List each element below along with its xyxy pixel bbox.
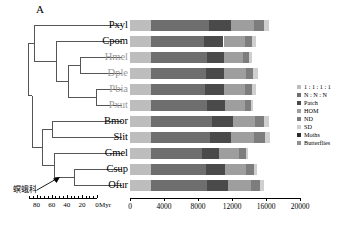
time-axis-minor-tick	[59, 196, 60, 198]
bar-row	[130, 148, 300, 159]
bar-segment	[245, 84, 253, 95]
bar-segment	[151, 180, 207, 191]
legend-item: Moths	[297, 131, 361, 139]
bar-segment	[253, 68, 257, 79]
bar-segment	[231, 132, 254, 143]
bar-segment	[265, 132, 270, 143]
time-axis-minor-tick	[74, 196, 75, 198]
bar-segment	[207, 180, 227, 191]
time-axis-minor-tick	[89, 196, 90, 198]
time-axis-tick-label: 80	[33, 201, 40, 209]
time-axis-minor-tick	[40, 196, 41, 198]
legend-label: ND	[304, 116, 313, 122]
time-axis-major-tick	[97, 195, 98, 198]
time-axis-minor-tick	[55, 196, 56, 198]
taxon-label-pbia: Pbia	[74, 84, 128, 95]
bar-segment	[264, 20, 269, 31]
bar-segment	[254, 132, 265, 143]
time-axis-tick-label: 60	[48, 201, 55, 209]
bar-segment	[239, 148, 246, 159]
count-axis-tick-label: 16000	[257, 202, 276, 211]
bar-segment	[252, 84, 255, 95]
bar-segment	[212, 116, 232, 127]
bar-segment	[130, 20, 151, 31]
legend-item: Patch	[297, 99, 361, 107]
bar-row	[130, 132, 300, 143]
count-axis-tick-label: 20000	[291, 202, 310, 211]
taxon-label-bmor: Bmor	[74, 116, 128, 127]
bar-segment	[231, 20, 254, 31]
time-axis-minor-tick	[71, 196, 72, 198]
bar-segment	[130, 36, 151, 47]
bar-row	[130, 84, 300, 95]
legend-label: Patch	[304, 100, 318, 106]
taxon-label-dple: Dple	[74, 68, 128, 79]
legend-item: Butterflies	[297, 139, 361, 147]
legend-swatch	[297, 133, 301, 137]
legend-item: N : N : N	[297, 91, 361, 99]
legend-swatch	[297, 85, 301, 89]
bar-segment	[206, 164, 226, 175]
bar-row	[130, 20, 300, 31]
taxon-label-pxyl: Pxyl	[74, 20, 128, 31]
bar-segment	[151, 148, 202, 159]
bar-row	[130, 36, 300, 47]
bar-segment	[264, 116, 268, 127]
bar-row	[130, 180, 300, 191]
legend-swatch	[297, 125, 301, 129]
bar-segment	[205, 84, 225, 95]
count-axis-tick	[198, 198, 199, 201]
count-axis-tick	[266, 198, 267, 201]
bar-row	[130, 164, 300, 175]
panel-letter: A	[36, 3, 44, 15]
annotation-arrow-icon	[36, 176, 62, 192]
taxon-label-cpom: Cpom	[74, 36, 128, 47]
bar-segment	[151, 100, 207, 111]
taxon-label-csup: Csup	[74, 164, 128, 175]
bar-segment	[130, 116, 151, 127]
bar-segment	[245, 36, 253, 47]
bar-segment	[219, 148, 239, 159]
bar-row	[130, 116, 300, 127]
bar-segment	[210, 132, 231, 143]
legend-label: Butterflies	[304, 140, 330, 146]
count-axis-tick-label: 4000	[157, 202, 172, 211]
bar-segment	[251, 180, 260, 191]
bar-segment	[228, 180, 251, 191]
bar-segment	[251, 100, 254, 111]
bar-segment	[206, 68, 225, 79]
bar-segment	[130, 84, 151, 95]
bar-segment	[151, 84, 205, 95]
time-axis-minor-tick	[63, 196, 64, 198]
taxon-label-gmel: Gmel	[74, 148, 128, 159]
bar-segment	[233, 116, 255, 127]
time-axis-minor-tick	[44, 196, 45, 198]
bar-segment	[254, 20, 264, 31]
count-axis-line	[130, 198, 300, 199]
legend-item: ND	[297, 115, 361, 123]
count-axis-tick-label: 12000	[223, 202, 242, 211]
legend-label: SD	[304, 124, 312, 130]
legend-item: 1 : 1 : 1 : 1	[297, 83, 361, 91]
legend-label: 1 : 1 : 1 : 1	[304, 84, 331, 90]
taxon-label-hmel: Hmel	[74, 52, 128, 63]
count-axis-tick-label: 0	[128, 202, 132, 211]
legend-swatch	[297, 101, 301, 105]
legend-label: Moths	[304, 132, 320, 138]
bar-segment	[224, 52, 243, 63]
bar-segment	[130, 148, 151, 159]
bar-segment	[249, 52, 252, 63]
time-axis-major-tick	[67, 195, 68, 198]
time-axis-line	[29, 198, 97, 199]
bar-segment	[252, 36, 255, 47]
bar-segment	[255, 116, 264, 127]
bar-segment	[224, 84, 244, 95]
figure-panel-a: A	[0, 0, 362, 233]
bar-segment	[202, 148, 219, 159]
taxon-label-slit: Slit	[74, 132, 128, 143]
bar-segment	[151, 36, 204, 47]
bar-segment	[130, 180, 151, 191]
bar-segment	[130, 100, 151, 111]
bar-segment	[151, 164, 205, 175]
bar-segment	[207, 52, 225, 63]
